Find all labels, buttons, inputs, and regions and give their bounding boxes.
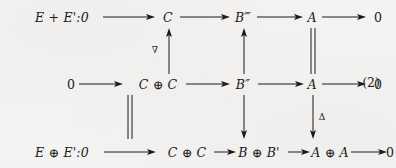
morphism-label-delta: Δ [319,112,326,122]
arrow-bottom-4 [351,146,387,158]
node-bottom-b-oplus-bp: B ⊕ B' [238,145,279,160]
vertical-arrow-down-b [238,95,250,139]
node-top-left: E + E':0 [35,10,89,25]
node-label: C ⊕ C [168,145,207,160]
node-label: E + E':0 [35,10,89,25]
node-mid-zero-left: 0 [67,77,75,92]
node-bottom-c-oplus-c: C ⊕ C [168,145,207,160]
node-label: B‴ [235,10,251,25]
node-top-c: C [163,10,173,25]
node-label: A ⊕ A [311,145,348,160]
node-label: 0 [374,10,382,25]
vertical-identity-top-a [307,28,319,74]
arrow-top-3 [257,11,303,23]
arrow-mid-1 [79,78,123,90]
node-label: 0 [67,77,75,92]
node-mid-bpp: B″ [236,77,250,92]
node-top-zero: 0 [374,10,382,25]
node-label: B″ [236,77,250,92]
node-bottom-a-oplus-a: A ⊕ A [311,145,348,160]
node-label: A [307,77,316,92]
node-mid-c-oplus-c: C ⊕ C [139,77,178,92]
arrow-bottom-3 [288,146,310,158]
vertical-identity-mid-coplusc [124,95,136,139]
node-label: C ⊕ C [139,77,178,92]
node-bottom-zero: 0 [386,145,394,160]
arrow-bottom-1 [104,146,156,158]
arrow-top-2 [180,11,230,23]
arrow-top-1 [103,11,155,23]
node-label: A [307,10,316,25]
commutative-diagram: E + E':0 C B‴ A 0 [0,0,396,168]
node-label: E ⊕ E':0 [35,145,89,160]
node-label: C [163,10,173,25]
node-mid-a: A [307,77,316,92]
vertical-arrow-up-b [238,28,250,74]
node-label: 0 [386,145,394,160]
node-bottom-left: E ⊕ E':0 [35,145,89,160]
equation-number: (2) [362,75,380,90]
node-top-a: A [307,10,316,25]
morphism-label-nabla: ∇ [152,45,158,55]
vertical-arrow-up-nabla [163,28,175,74]
vertical-arrow-down-delta [307,95,319,139]
arrow-mid-4 [322,78,366,90]
arrow-top-4 [322,11,366,23]
node-top-bppp: B‴ [235,10,251,25]
arrow-mid-3 [258,78,304,90]
node-label: B ⊕ B' [238,145,279,160]
arrow-bottom-2 [214,146,236,158]
arrow-mid-2 [186,78,230,90]
